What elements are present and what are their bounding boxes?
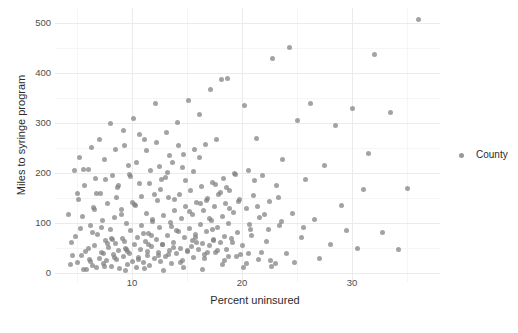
data-point: [69, 240, 74, 245]
data-point: [68, 262, 73, 267]
data-point: [169, 261, 174, 266]
data-point: [172, 208, 177, 213]
data-point: [169, 224, 174, 229]
data-point: [105, 201, 110, 206]
data-point: [264, 239, 269, 244]
x-axis-tick-labels: 102030: [0, 278, 518, 292]
y-tick-label: 500: [11, 18, 51, 28]
y-tick-label: 400: [11, 68, 51, 78]
data-point: [181, 152, 186, 157]
data-point: [88, 223, 93, 228]
data-point: [274, 183, 279, 188]
data-point: [198, 201, 203, 206]
data-point: [176, 143, 181, 148]
data-point: [191, 169, 196, 174]
data-point: [215, 248, 220, 253]
data-point: [172, 197, 177, 202]
data-point: [155, 198, 160, 203]
data-point: [144, 148, 149, 153]
data-point: [200, 241, 205, 246]
data-point: [178, 246, 183, 251]
scatter-chart: Miles to syringe program 010020030040050…: [0, 0, 518, 333]
data-point: [77, 155, 82, 160]
data-point: [270, 56, 275, 61]
legend-dot-icon: [459, 153, 464, 158]
data-point: [124, 247, 129, 252]
data-point: [344, 228, 349, 233]
data-point: [174, 251, 179, 256]
data-point: [112, 215, 117, 220]
data-point: [122, 239, 127, 244]
data-point: [256, 257, 261, 262]
data-point: [191, 255, 196, 260]
data-point: [139, 194, 144, 199]
data-point: [97, 137, 102, 142]
data-point: [249, 233, 254, 238]
data-point: [145, 249, 150, 254]
data-point: [113, 147, 118, 152]
data-point: [333, 123, 338, 128]
data-point: [212, 204, 217, 209]
gridline-minor-horizontal: [55, 248, 440, 249]
data-point: [247, 222, 252, 227]
data-point: [221, 176, 226, 181]
data-point: [166, 195, 171, 200]
data-point: [226, 254, 231, 259]
data-point: [225, 76, 230, 81]
data-point: [130, 259, 135, 264]
data-point: [396, 247, 401, 252]
data-point: [198, 222, 203, 227]
plot-panel: [55, 8, 440, 282]
data-point: [183, 178, 188, 183]
data-point: [164, 130, 169, 135]
gridline-minor-horizontal: [55, 48, 440, 49]
legend-key-county[interactable]: [452, 146, 470, 164]
data-point: [116, 248, 121, 253]
data-point: [339, 203, 344, 208]
data-point: [192, 147, 197, 152]
data-point: [178, 260, 183, 265]
data-point: [158, 187, 163, 192]
data-point: [138, 247, 143, 252]
data-point: [205, 250, 210, 255]
data-point: [75, 260, 80, 265]
data-point: [132, 242, 137, 247]
gridline-major-horizontal: [55, 73, 440, 74]
data-point: [135, 235, 140, 240]
data-point: [130, 200, 135, 205]
gridline-minor-horizontal: [55, 98, 440, 99]
data-point: [134, 265, 139, 270]
data-point: [194, 240, 199, 245]
data-point: [197, 112, 202, 117]
data-point: [388, 110, 393, 115]
data-point: [108, 121, 113, 126]
data-point: [260, 173, 265, 178]
data-point: [183, 204, 188, 209]
data-point: [242, 103, 247, 108]
data-point: [156, 253, 161, 258]
data-point: [280, 157, 285, 162]
data-point: [299, 235, 304, 240]
data-point: [147, 263, 152, 268]
data-point: [248, 227, 253, 232]
data-point: [122, 143, 127, 148]
data-point: [303, 177, 308, 182]
x-tick-label: 20: [222, 278, 262, 288]
data-point: [167, 153, 172, 158]
data-point: [175, 120, 180, 125]
data-point: [268, 258, 273, 263]
data-point: [100, 218, 105, 223]
data-point: [121, 128, 126, 133]
data-point: [81, 167, 86, 172]
data-point: [93, 176, 98, 181]
data-point: [78, 226, 83, 231]
data-point: [240, 243, 245, 248]
data-point: [116, 183, 121, 188]
data-point: [246, 251, 251, 256]
data-point: [204, 198, 209, 203]
x-tick-label: 10: [112, 278, 152, 288]
data-point: [82, 183, 87, 188]
data-point: [84, 267, 89, 272]
gridline-major-vertical: [132, 8, 133, 282]
data-point: [244, 261, 249, 266]
